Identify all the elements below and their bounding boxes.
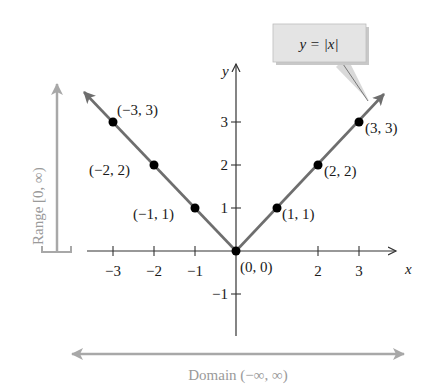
y-tick-label: 3	[221, 114, 229, 130]
domain-indicator: Domain (−∞, ∞)	[72, 354, 404, 384]
x-tick-label: 2	[314, 263, 322, 279]
domain-label: Domain (−∞, ∞)	[188, 367, 287, 384]
point-3-3	[355, 118, 364, 127]
x-axis-label: x	[404, 261, 412, 277]
point-neg2-2	[150, 161, 159, 170]
point-neg1-1	[191, 204, 200, 213]
point-2-2	[314, 161, 323, 170]
y-tick-label: 1	[221, 200, 229, 216]
y-axis-label: y	[220, 63, 229, 79]
point-label: (0, 0)	[240, 259, 273, 276]
point-label: (2, 2)	[324, 163, 357, 180]
x-tick-label: 3	[355, 263, 363, 279]
point-label: (−1, 1)	[133, 206, 174, 223]
function-callout: y = |x|	[273, 24, 369, 101]
point-label: (−2, 2)	[89, 162, 130, 179]
point-label: (−3, 3)	[117, 102, 158, 119]
point-neg3-3	[109, 118, 118, 127]
x-tick-label: −2	[146, 263, 162, 279]
point-label: (1, 1)	[282, 206, 315, 223]
range-label: Range [0, ∞)	[30, 167, 47, 245]
function-label: y = |x|	[297, 36, 338, 52]
abs-value-graph: Range [0, ∞) Domain (−∞, ∞) x y −3 −2 −1…	[0, 0, 447, 389]
point-1-1	[273, 204, 282, 213]
x-tick-label: −1	[187, 263, 203, 279]
y-tick-label: 2	[221, 157, 229, 173]
point-label: (3, 3)	[365, 120, 398, 137]
x-tick-label: −3	[105, 263, 121, 279]
range-indicator: Range [0, ∞)	[30, 84, 71, 252]
point-origin	[232, 247, 241, 256]
y-tick-label: −1	[212, 286, 228, 302]
